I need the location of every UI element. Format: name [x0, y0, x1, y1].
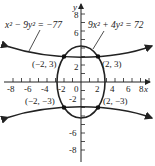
svg-text:-2: -2 [69, 94, 77, 104]
svg-text:-2: -2 [58, 84, 66, 94]
point-label-2-neg3: (2, −3) [103, 96, 128, 106]
hyperbola-lower-branch [8, 107, 152, 118]
svg-text:-4: -4 [41, 84, 49, 94]
x-axis [4, 78, 150, 82]
svg-text:-6: -6 [24, 84, 32, 94]
point-label-neg2-3: (−2, 3) [32, 59, 57, 69]
svg-text:8: 8 [74, 10, 79, 20]
ellipse-equation: 9x² + 4y² = 72 [88, 20, 144, 30]
svg-text:6: 6 [74, 28, 79, 38]
point-label-2-3: (2, 3) [102, 59, 122, 69]
point-label-neg2-neg3: (−2, −3) [25, 96, 55, 106]
point-2-3 [96, 54, 101, 59]
point-2-neg3 [96, 105, 101, 110]
svg-text:2: 2 [74, 62, 79, 72]
hyperbola-upper-branch [8, 46, 152, 57]
svg-text:-8: -8 [69, 145, 77, 155]
svg-text:0: 0 [74, 84, 79, 94]
point-neg2-3 [62, 54, 67, 59]
svg-text:8: 8 [139, 84, 144, 94]
x-tick-labels: -8 -6 -4 -2 0 2 4 6 8 [7, 84, 144, 94]
svg-text:6: 6 [126, 84, 131, 94]
svg-text:2: 2 [95, 84, 100, 94]
svg-text:4: 4 [110, 84, 115, 94]
point-neg2-neg3 [62, 105, 67, 110]
y-axis [81, 4, 85, 162]
svg-text:-6: -6 [69, 128, 77, 138]
graph-figure: x y -8 -6 -4 -2 0 2 4 6 8 2 6 8 -2 -6 -8… [0, 0, 155, 166]
x-axis-label: x [143, 84, 148, 94]
svg-text:-8: -8 [7, 84, 15, 94]
hyperbola-equation: x² − 9y² = −77 [4, 20, 63, 30]
